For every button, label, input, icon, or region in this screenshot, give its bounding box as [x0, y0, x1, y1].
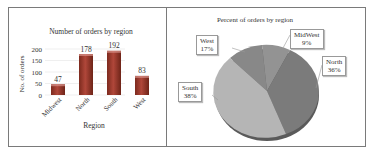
pie-label-name: West — [200, 37, 214, 45]
pie-label-midwest: MidWest 9% — [290, 29, 324, 49]
pie-label-north: North 36% — [322, 56, 346, 76]
pie-label-name: South — [182, 84, 198, 92]
pie-chart-title: Percent of orders by region — [217, 16, 294, 24]
pie-label-name: North — [326, 58, 342, 66]
pie-slices — [213, 45, 319, 138]
pie-label-pct: 36% — [326, 66, 342, 74]
pie-label-south: South 38% — [178, 82, 202, 102]
pie-label-name: MidWest — [294, 31, 320, 39]
pie-chart: Percent of orders by region — [0, 0, 372, 154]
pie-label-west: West 17% — [196, 35, 218, 55]
pie-label-pct: 38% — [182, 92, 198, 100]
pie-label-pct: 17% — [200, 45, 214, 53]
pie-label-pct: 9% — [294, 39, 320, 47]
